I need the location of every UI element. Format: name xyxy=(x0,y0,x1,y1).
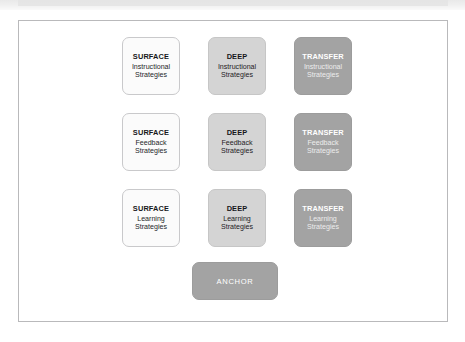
card-subtitle-line2: Strategies xyxy=(221,71,253,79)
strategy-matrix: SURFACE Instructional Strategies DEEP In… xyxy=(122,37,352,265)
card-subtitle-line1: Learning xyxy=(309,215,337,223)
card-title: DEEP xyxy=(227,129,248,138)
matrix-row-learning: SURFACE Learning Strategies DEEP Learnin… xyxy=(122,189,352,247)
card-title: TRANSFER xyxy=(302,53,343,62)
card-subtitle-line2: Strategies xyxy=(221,223,253,231)
card-title: SURFACE xyxy=(133,129,169,138)
card-surface-instructional[interactable]: SURFACE Instructional Strategies xyxy=(122,37,180,95)
card-title: DEEP xyxy=(227,53,248,62)
card-subtitle-line2: Strategies xyxy=(307,147,339,155)
card-transfer-learning[interactable]: TRANSFER Learning Strategies xyxy=(294,189,352,247)
card-subtitle-line1: Feedback xyxy=(307,139,338,147)
matrix-row-instructional: SURFACE Instructional Strategies DEEP In… xyxy=(122,37,352,95)
card-surface-learning[interactable]: SURFACE Learning Strategies xyxy=(122,189,180,247)
card-title: DEEP xyxy=(227,205,248,214)
card-subtitle-line2: Strategies xyxy=(221,147,253,155)
card-subtitle-line1: Learning xyxy=(137,215,165,223)
card-subtitle-line2: Strategies xyxy=(135,147,167,155)
card-subtitle-line2: Strategies xyxy=(307,223,339,231)
card-subtitle-line2: Strategies xyxy=(135,223,167,231)
card-subtitle-line1: Feedback xyxy=(135,139,166,147)
matrix-row-feedback: SURFACE Feedback Strategies DEEP Feedbac… xyxy=(122,113,352,171)
scan-artifact-band-inner xyxy=(18,0,448,6)
card-subtitle-line1: Instructional xyxy=(218,63,256,71)
card-deep-feedback[interactable]: DEEP Feedback Strategies xyxy=(208,113,266,171)
card-deep-instructional[interactable]: DEEP Instructional Strategies xyxy=(208,37,266,95)
card-subtitle-line2: Strategies xyxy=(135,71,167,79)
anchor-box[interactable]: ANCHOR xyxy=(192,262,278,300)
card-deep-learning[interactable]: DEEP Learning Strategies xyxy=(208,189,266,247)
card-transfer-feedback[interactable]: TRANSFER Feedback Strategies xyxy=(294,113,352,171)
anchor-label: ANCHOR xyxy=(216,277,253,286)
anchor-row: ANCHOR xyxy=(122,262,352,300)
card-title: TRANSFER xyxy=(302,205,343,214)
card-surface-feedback[interactable]: SURFACE Feedback Strategies xyxy=(122,113,180,171)
card-title: TRANSFER xyxy=(302,129,343,138)
slide-frame: SURFACE Instructional Strategies DEEP In… xyxy=(18,20,448,322)
card-title: SURFACE xyxy=(133,53,169,62)
card-subtitle-line1: Instructional xyxy=(132,63,170,71)
card-subtitle-line1: Instructional xyxy=(304,63,342,71)
card-title: SURFACE xyxy=(133,205,169,214)
card-subtitle-line2: Strategies xyxy=(307,71,339,79)
card-transfer-instructional[interactable]: TRANSFER Instructional Strategies xyxy=(294,37,352,95)
card-subtitle-line1: Learning xyxy=(223,215,251,223)
card-subtitle-line1: Feedback xyxy=(221,139,252,147)
